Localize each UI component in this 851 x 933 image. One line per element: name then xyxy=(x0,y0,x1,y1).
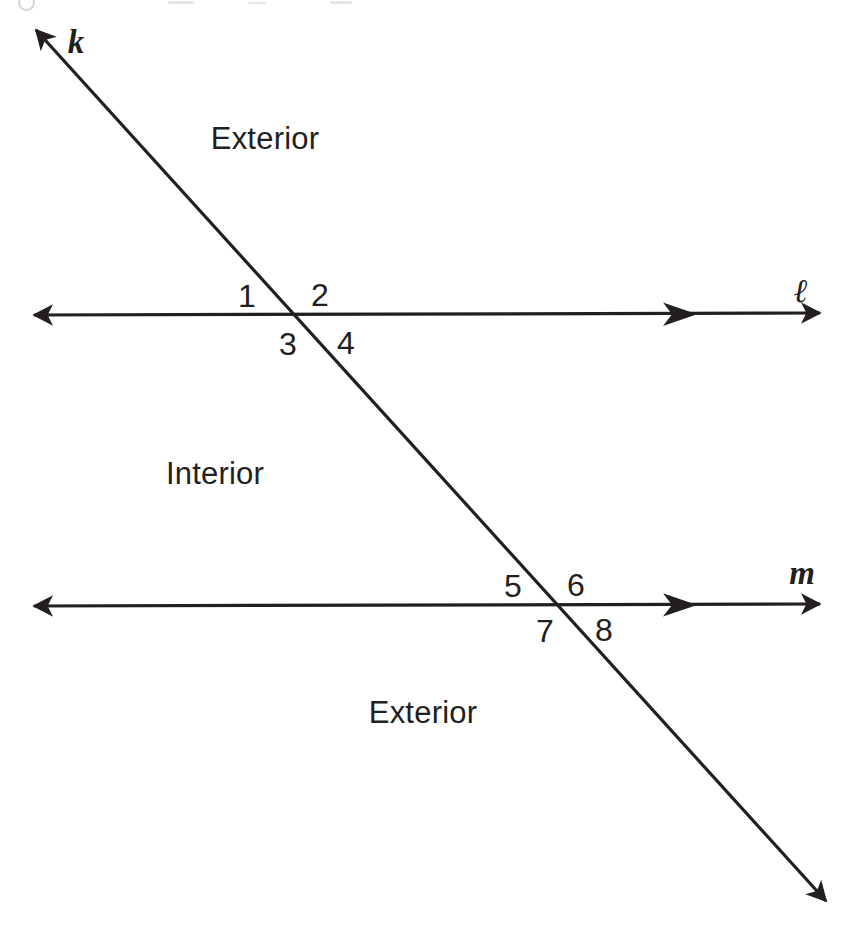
angle-label-2: 2 xyxy=(311,279,329,311)
geometry-figure: Exterior Interior Exterior 1 2 3 4 5 6 7… xyxy=(0,0,851,933)
scan-artifact xyxy=(168,1,194,4)
angle-label-4: 4 xyxy=(337,327,355,359)
region-label-interior: Interior xyxy=(166,458,264,489)
angle-label-8: 8 xyxy=(595,614,613,646)
angle-label-3: 3 xyxy=(279,328,297,360)
line-label-l: ℓ xyxy=(794,275,808,308)
parallel-line-m xyxy=(34,604,820,606)
angle-label-7: 7 xyxy=(536,615,554,647)
scan-artifact xyxy=(330,1,352,4)
geometry-canvas xyxy=(0,0,851,933)
region-label-exterior-bottom: Exterior xyxy=(369,697,477,728)
line-label-m: m xyxy=(789,557,815,590)
transversal-line-k xyxy=(36,30,826,901)
angle-label-5: 5 xyxy=(504,570,522,602)
angle-label-1: 1 xyxy=(238,280,256,312)
angle-label-6: 6 xyxy=(567,569,585,601)
scan-artifact xyxy=(248,2,266,4)
region-label-exterior-top: Exterior xyxy=(211,123,319,154)
line-label-k: k xyxy=(68,26,85,59)
parallel-line-l xyxy=(34,313,820,315)
